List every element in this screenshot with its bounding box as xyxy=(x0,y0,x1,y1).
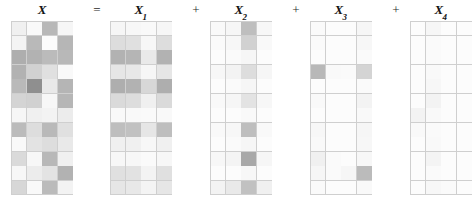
heatmap-cell xyxy=(211,181,226,195)
heatmap-cell xyxy=(141,94,156,108)
heatmap-cell xyxy=(58,137,73,151)
heatmap-cell xyxy=(141,137,156,151)
heatmap-cell xyxy=(157,36,172,50)
heatmap-cell xyxy=(157,65,172,79)
heatmap-cell xyxy=(411,79,426,93)
heatmap-cell xyxy=(211,94,226,108)
heatmap-cell xyxy=(311,50,326,64)
heatmap-cell xyxy=(241,79,256,93)
matrix-label-x1: X1 xyxy=(110,0,172,20)
heatmap-cell xyxy=(141,166,156,180)
heatmap-cell xyxy=(226,181,241,195)
heatmap-cell xyxy=(126,36,141,50)
heatmap-cell xyxy=(27,50,42,64)
heatmap-cell xyxy=(441,181,456,195)
heatmap-cell xyxy=(27,123,42,137)
heatmap-cell xyxy=(326,152,341,166)
heatmap-cell xyxy=(12,65,27,79)
heatmap-cell xyxy=(257,137,272,151)
heatmap-cell xyxy=(42,50,57,64)
heatmap-cell xyxy=(58,94,73,108)
heatmap-cell xyxy=(441,137,456,151)
heatmap-cell xyxy=(12,166,27,180)
heatmap-cell xyxy=(111,108,126,122)
heatmap-cell xyxy=(326,36,341,50)
heatmap-cell xyxy=(111,166,126,180)
heatmap-cell xyxy=(257,94,272,108)
matrix-decomposition-figure: XX1X2X3X4=+++ xyxy=(0,0,474,208)
heatmap-cell xyxy=(341,181,356,195)
heatmap-cell xyxy=(326,65,341,79)
heatmap-cell xyxy=(441,94,456,108)
heatmap-cell xyxy=(411,50,426,64)
heatmap-cell xyxy=(357,181,372,195)
heatmap-cell xyxy=(441,123,456,137)
heatmap-cell xyxy=(311,137,326,151)
heatmap-cell xyxy=(126,123,141,137)
heatmap-cell xyxy=(58,152,73,166)
heatmap-cell xyxy=(42,123,57,137)
heatmap-cell xyxy=(42,79,57,93)
matrix-label-base: X xyxy=(38,2,47,17)
heatmap-cell xyxy=(257,108,272,122)
matrix-label-x3: X3 xyxy=(310,0,372,20)
matrix-label-base: X xyxy=(434,2,443,17)
heatmap-cell xyxy=(457,22,472,36)
heatmap-cell xyxy=(357,65,372,79)
heatmap-cell xyxy=(141,181,156,195)
heatmap-cell xyxy=(12,137,27,151)
heatmap-cell xyxy=(457,65,472,79)
heatmap-cell xyxy=(357,50,372,64)
heatmap-cell xyxy=(241,22,256,36)
heatmap-cell xyxy=(241,50,256,64)
heatmap-cell xyxy=(226,36,241,50)
heatmap-cell xyxy=(141,108,156,122)
matrix-label-x2: X2 xyxy=(210,0,272,20)
heatmap-cell xyxy=(12,123,27,137)
heatmap-cell xyxy=(311,123,326,137)
heatmap-cell xyxy=(411,181,426,195)
heatmap-cell xyxy=(211,65,226,79)
heatmap-cell xyxy=(326,166,341,180)
heatmap-cell xyxy=(326,137,341,151)
heatmap-cell xyxy=(126,94,141,108)
heatmap-cell xyxy=(42,94,57,108)
heatmap-cell xyxy=(27,152,42,166)
heatmap-cell xyxy=(457,123,472,137)
heatmap-cell xyxy=(457,108,472,122)
heatmap-cell xyxy=(27,137,42,151)
heatmap-cell xyxy=(211,108,226,122)
heatmap-cell xyxy=(12,181,27,195)
heatmap-cell xyxy=(111,36,126,50)
heatmap-cell xyxy=(126,108,141,122)
heatmap-cell xyxy=(357,152,372,166)
heatmap-cell xyxy=(58,36,73,50)
matrix-term-x3: X3 xyxy=(310,0,372,208)
heatmap-cell xyxy=(226,65,241,79)
heatmap-cell xyxy=(341,166,356,180)
heatmap-cell xyxy=(42,108,57,122)
heatmap-cell xyxy=(341,152,356,166)
heatmap-cell xyxy=(226,94,241,108)
heatmap-cell xyxy=(326,94,341,108)
heatmap-cell xyxy=(126,79,141,93)
heatmap-cell xyxy=(457,166,472,180)
heatmap-cell xyxy=(457,152,472,166)
heatmap-cell xyxy=(326,79,341,93)
heatmap-cell xyxy=(457,36,472,50)
heatmap-cell xyxy=(111,79,126,93)
heatmap-cell xyxy=(111,65,126,79)
heatmap-cell xyxy=(111,137,126,151)
heatmap-cell xyxy=(157,123,172,137)
heatmap-cell xyxy=(357,166,372,180)
heatmap-cell xyxy=(411,94,426,108)
heatmap-cell xyxy=(311,94,326,108)
heatmap-cell xyxy=(341,22,356,36)
heatmap-cell xyxy=(126,65,141,79)
heatmap-cell xyxy=(27,22,42,36)
heatmap-cell xyxy=(457,79,472,93)
heatmap-cell xyxy=(326,50,341,64)
heatmap-cell xyxy=(211,22,226,36)
heatmap-cell xyxy=(311,65,326,79)
heatmap-cell xyxy=(341,137,356,151)
